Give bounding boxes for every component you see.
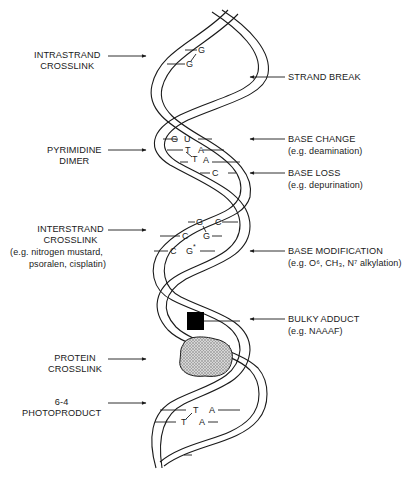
- svg-text:*: *: [193, 243, 196, 250]
- svg-text:G: G: [171, 134, 178, 144]
- label-example: (e.g. O⁶, CH₃, N⁷ alkylation): [288, 257, 402, 269]
- label-intrastrand-crosslink: INTRASTRAND CROSSLINK: [34, 50, 100, 72]
- label-base-modification: BASE MODIFICATION (e.g. O⁶, CH₃, N⁷ alky…: [288, 246, 402, 269]
- svg-text:G: G: [186, 246, 193, 256]
- label-line: PYRIMIDINE: [47, 145, 102, 156]
- label-line: PHOTOPRODUCT: [22, 408, 101, 419]
- svg-text:A: A: [203, 155, 209, 165]
- label-pyrimidine-dimer: PYRIMIDINE DIMER: [47, 145, 102, 167]
- svg-text:C: C: [170, 246, 177, 256]
- svg-text:A: A: [209, 405, 215, 415]
- svg-text:T: T: [192, 154, 198, 164]
- label-example: (e.g. nitrogen mustard,: [7, 246, 106, 258]
- label-line: INTRASTRAND: [34, 50, 100, 61]
- bulky-adduct-block: [187, 312, 204, 330]
- label-title: BULKY ADDUCT: [288, 314, 360, 325]
- label-line: INTERSTRAND: [7, 224, 106, 235]
- svg-text:T: T: [193, 405, 199, 415]
- label-line: CROSSLINK: [7, 235, 106, 246]
- protein-crosslink-blob: [180, 337, 233, 376]
- helix-strand-b: [154, 10, 268, 466]
- svg-text:A: A: [198, 145, 204, 155]
- label-strand-break: STRAND BREAK: [288, 72, 361, 83]
- label-line: DIMER: [47, 156, 102, 167]
- svg-text:T: T: [181, 417, 187, 427]
- svg-text:A: A: [199, 417, 205, 427]
- svg-text:U: U: [184, 134, 191, 144]
- svg-text:T: T: [185, 145, 191, 155]
- label-bulky-adduct: BULKY ADDUCT (e.g. NAAAF): [288, 314, 360, 337]
- label-line: PROTEIN: [48, 353, 102, 364]
- label-base-change: BASE CHANGE (e.g. deamination): [288, 134, 362, 157]
- label-line: CROSSLINK: [48, 364, 102, 375]
- svg-text:G: G: [203, 231, 210, 241]
- label-interstrand-crosslink: INTERSTRAND CROSSLINK (e.g. nitrogen mus…: [7, 224, 106, 270]
- label-line: CROSSLINK: [34, 61, 100, 72]
- label-6-4-photoproduct: 6-4 PHOTOPRODUCT: [22, 397, 101, 419]
- label-title: BASE CHANGE: [288, 134, 362, 145]
- svg-text:G: G: [198, 45, 205, 55]
- label-base-loss: BASE LOSS (e.g. depurination): [288, 168, 363, 191]
- svg-text:G: G: [196, 217, 203, 227]
- svg-text:G: G: [186, 59, 193, 69]
- svg-text:C: C: [182, 231, 189, 241]
- label-example: (e.g. depurination): [288, 179, 363, 191]
- svg-text:C: C: [212, 168, 219, 178]
- label-title: BASE MODIFICATION: [288, 246, 402, 257]
- label-line: 6-4: [22, 397, 101, 408]
- label-title: STRAND BREAK: [288, 72, 361, 83]
- label-example: (e.g. NAAAF): [288, 325, 360, 337]
- label-protein-crosslink: PROTEIN CROSSLINK: [48, 353, 102, 375]
- label-example: (e.g. deamination): [288, 145, 362, 157]
- svg-text:C: C: [215, 217, 222, 227]
- label-title: BASE LOSS: [288, 168, 363, 179]
- label-example: psoralen, cisplatin): [7, 258, 106, 270]
